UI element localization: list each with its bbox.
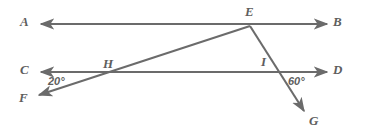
point-label-h: H [103, 57, 113, 70]
point-label-d: D [333, 63, 342, 76]
point-label-b: B [333, 15, 342, 28]
point-label-g: G [309, 114, 318, 127]
ray-ef [39, 26, 250, 95]
point-label-f: F [19, 91, 28, 104]
point-label-c: C [20, 63, 29, 76]
angle-measure-60: 60° [288, 76, 305, 87]
point-label-e: E [245, 5, 254, 18]
angle-measure-20: 20° [48, 76, 65, 87]
point-label-i: I [261, 55, 266, 68]
ray-eg [250, 26, 304, 111]
lines-group [39, 24, 327, 111]
point-label-a: A [20, 15, 29, 28]
geometry-diagram: A B C D E F G H I 20° 60° [0, 0, 370, 137]
